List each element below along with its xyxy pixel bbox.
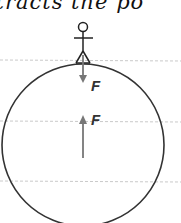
ruled-line — [0, 60, 181, 61]
force-label-down: F — [91, 77, 101, 94]
force-label-up: F — [91, 111, 101, 128]
force-diagram: F F — [0, 0, 181, 223]
force-arrow-up — [79, 115, 87, 158]
force-arrow-down — [79, 55, 87, 83]
ruled-line — [0, 181, 181, 182]
